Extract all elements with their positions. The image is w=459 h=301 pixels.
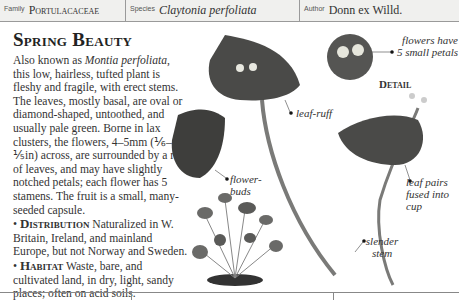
leader-dot	[390, 50, 393, 53]
annotation-leaf-ruff: leaf-ruff	[296, 107, 332, 119]
footer-cell	[0, 293, 132, 300]
flower-buds-leaf-illustration	[172, 109, 225, 178]
footer-cell	[334, 293, 459, 300]
annotation-leaf-pairs: leaf pairs fused into cup	[406, 176, 458, 212]
footer-bar	[0, 292, 459, 300]
annotation-detail: Detail	[379, 78, 411, 90]
annotation-flowers: flowers have 5 small petals	[396, 34, 458, 58]
footer-cell	[132, 293, 334, 300]
leaf-cup-illustration	[338, 116, 423, 165]
annotation-slender-stem: slender stem	[364, 235, 400, 259]
whole-plant-illustration	[192, 193, 283, 286]
annotation-flower-buds: flower-buds	[230, 173, 262, 197]
flower-detail-circle	[327, 34, 373, 80]
